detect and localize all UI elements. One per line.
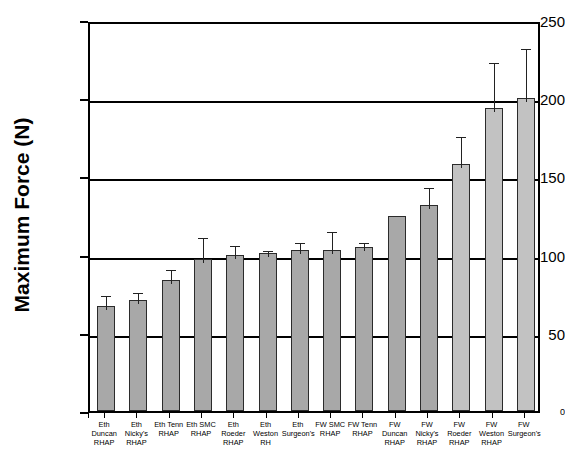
bar xyxy=(323,250,341,411)
x-axis-tick-label: Eth Tenn RHAP xyxy=(153,420,185,438)
error-bar-line xyxy=(494,63,495,111)
bar xyxy=(259,253,277,411)
x-tick xyxy=(169,413,170,418)
bar xyxy=(420,205,438,411)
error-bar-cap xyxy=(166,270,176,271)
error-bar-line xyxy=(461,137,462,168)
error-bar-cap xyxy=(359,243,369,244)
bar xyxy=(291,250,309,411)
error-bar-line xyxy=(364,243,365,251)
x-tick xyxy=(395,413,396,418)
x-axis-tick-label: Eth Roeder RHAP xyxy=(217,420,249,447)
error-bar-cap xyxy=(230,246,240,247)
bar xyxy=(97,306,115,411)
x-axis-tick-label: FW Tenn RHAP xyxy=(346,420,378,438)
gridline-150 xyxy=(90,179,538,181)
x-axis-tick-label: FW Weston RHAP xyxy=(475,420,507,447)
y-axis-title: Maximum Force (N) xyxy=(0,0,44,430)
x-tick xyxy=(362,413,363,418)
x-axis-tick-label: Eth Surgeon's xyxy=(282,420,314,438)
x-tick xyxy=(427,413,428,418)
error-bar-cap xyxy=(424,188,434,189)
bar xyxy=(517,98,535,411)
bar xyxy=(194,259,212,411)
error-bar-line xyxy=(171,270,172,284)
x-tick xyxy=(136,413,137,418)
error-bar-line xyxy=(138,293,139,304)
x-tick xyxy=(298,413,299,418)
x-tick xyxy=(524,413,525,418)
error-bar-cap xyxy=(198,238,208,239)
gridline-200 xyxy=(90,101,538,103)
y-tick-50 xyxy=(80,334,88,336)
x-axis-tick-label: FW Duncan RHAP xyxy=(379,420,411,447)
x-axis-tick-label: Eth Nicky's RHAP xyxy=(120,420,152,447)
x-tick xyxy=(330,413,331,418)
error-bar-cap xyxy=(489,63,499,64)
x-axis-tick-label: FW Roeder RHAP xyxy=(443,420,475,447)
x-axis-tick-label: FW Surgeon's xyxy=(508,420,540,438)
bar xyxy=(452,164,470,411)
plot-area xyxy=(88,22,540,413)
x-axis-tick-label: FW SMC RHAP xyxy=(314,420,346,438)
error-bar-cap xyxy=(521,49,531,50)
x-tick xyxy=(233,413,234,418)
error-bar-line xyxy=(106,296,107,310)
x-tick xyxy=(88,413,89,418)
error-bar-cap xyxy=(327,232,337,233)
x-axis-tick-label: Eth Weston RH xyxy=(249,420,281,447)
bar xyxy=(162,280,180,411)
error-bar-line xyxy=(300,243,301,254)
y-axis-title-label: Maximum Force (N) xyxy=(10,118,34,313)
error-bar-cap xyxy=(133,293,143,294)
x-tick xyxy=(104,413,105,418)
x-tick xyxy=(201,413,202,418)
x-axis-tick-label: FW Nicky's RHAP xyxy=(411,420,443,447)
error-bar-cap xyxy=(456,137,466,138)
error-bar-cap xyxy=(101,296,111,297)
bar xyxy=(355,247,373,411)
gridline-100 xyxy=(90,258,538,260)
x-axis-tick-label: Eth Duncan RHAP xyxy=(88,420,120,447)
y-tick-150 xyxy=(80,177,88,179)
gridline-50 xyxy=(90,336,538,338)
error-bar-cap xyxy=(263,251,273,252)
x-axis-tick-label: Eth SMC RHAP xyxy=(185,420,217,438)
bar xyxy=(485,108,503,411)
error-bar-line xyxy=(203,238,204,263)
y-tick-200 xyxy=(80,99,88,101)
x-tick xyxy=(492,413,493,418)
y-tick-250 xyxy=(80,21,88,23)
y-tick-0 xyxy=(80,412,88,414)
error-bar-line xyxy=(526,49,527,102)
error-bar-cap xyxy=(295,243,305,244)
error-bar-line xyxy=(332,232,333,254)
x-tick xyxy=(459,413,460,418)
error-bar-line xyxy=(429,188,430,208)
bar xyxy=(388,216,406,412)
x-tick xyxy=(266,413,267,418)
bar-chart: Maximum Force (N) 050100150200250 Eth Du… xyxy=(0,0,565,458)
y-tick-100 xyxy=(80,256,88,258)
error-bar-line xyxy=(235,246,236,259)
bar xyxy=(226,255,244,411)
bar xyxy=(129,300,147,411)
